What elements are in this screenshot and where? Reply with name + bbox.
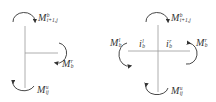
left-bottom-moment-arrow (13, 82, 34, 91)
right-right-stiffness-label: irb (166, 39, 172, 49)
left-top-moment-arrow (13, 12, 35, 22)
right-top-moment-label: Mbi+1,j (171, 13, 191, 23)
left-bottom-moment-label: Muij (37, 85, 49, 95)
left-top-moment-label: Mbi+1,j (38, 13, 58, 23)
right-right-moment-label: Mrb (196, 38, 208, 48)
right-bottom-moment-arrow (146, 85, 168, 95)
right-left-stiffness-label: ilb (139, 39, 145, 49)
left-right-moment-label: Mrb (62, 59, 74, 69)
right-left-moment-label: Mlb (110, 38, 122, 48)
left-joint (13, 12, 67, 90)
right-bottom-moment-label: Muij (171, 86, 183, 96)
right-joint (119, 12, 197, 94)
right-top-moment-arrow (146, 12, 168, 22)
